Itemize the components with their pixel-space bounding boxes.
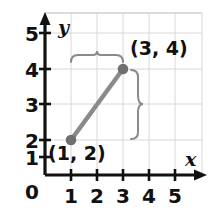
y-tick-label-4: 4 [25,58,39,82]
point-label-3-4: (3, 4) [130,37,188,59]
x-axis-label: x [184,148,197,170]
y-tick-label-5: 5 [25,22,39,46]
x-tick-label-2: 2 [90,184,104,208]
x-tick-label-4: 4 [142,184,156,208]
coordinate-plane-graphic: 5 4 3 2 1 0 1 2 3 4 5 y x (3, 4) (1, 2) [0,0,220,214]
x-tick-label-5: 5 [168,184,182,208]
y-axis-label: y [57,16,71,38]
y-axis-arrow-icon [40,12,51,25]
x-tick-label-1: 1 [64,184,78,208]
y-tick-label-1: 1 [25,146,39,170]
origin-label: 0 [25,180,39,204]
point-label-1-2: (1, 2) [48,142,106,164]
figure-canvas: 5 4 3 2 1 0 1 2 3 4 5 y x (3, 4) (1, 2) [0,0,220,214]
y-tick-label-3: 3 [25,93,39,117]
x-axis-arrow-icon [194,170,207,181]
x-tick-label-3: 3 [116,184,130,208]
point-marker-3-4 [118,64,129,75]
